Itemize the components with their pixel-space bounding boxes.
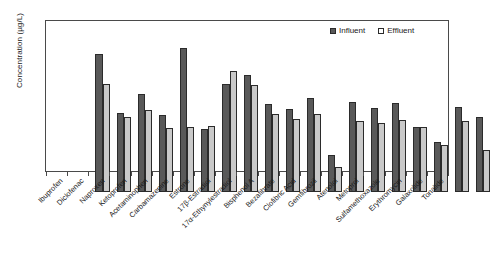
legend-entry-effluent: Effluent [378,26,414,35]
bar-influent [476,117,483,192]
x-tick-mark [385,172,386,176]
x-tick-mark [406,172,407,176]
x-tick-mark [279,172,280,176]
x-tick-mark [363,172,364,176]
x-tick-mark [300,172,301,176]
x-tick-mark [427,172,428,176]
x-tick-mark [88,172,89,176]
legend-swatch-influent-icon [330,28,336,34]
bar-influent [244,75,251,192]
x-tick-mark [152,172,153,176]
x-tick-mark [109,172,110,176]
x-tick-mark [215,172,216,176]
bar-influent [180,48,187,192]
x-tick-mark [46,172,47,176]
x-tick-mark [131,172,132,176]
x-tick-mark [236,172,237,176]
legend-entry-influent: Influent [330,26,365,35]
legend-label-effluent: Effluent [387,26,414,35]
bar-influent [455,107,462,192]
legend-label-influent: Influent [339,26,365,35]
chart-legend: Influent Effluent [330,26,414,35]
x-tick-mark [173,172,174,176]
y-axis-title: Concentration (µg/L) [15,0,24,114]
bar-effluent [462,121,469,192]
bar-effluent [483,150,490,192]
legend-swatch-effluent-icon [378,28,384,34]
x-tick-mark [321,172,322,176]
plot-area [45,20,449,172]
bars-layer [92,42,494,192]
x-tick-mark [194,172,195,176]
x-tick-mark [258,172,259,176]
x-tick-mark [448,172,449,176]
x-tick-mark [342,172,343,176]
x-tick-mark [67,172,68,176]
bar-influent [95,54,102,192]
